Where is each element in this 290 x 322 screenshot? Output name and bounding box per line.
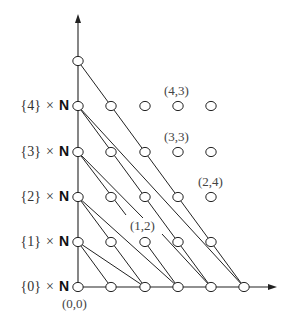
naturals-symbol: N xyxy=(59,188,69,204)
grid-node xyxy=(106,147,116,156)
coordinate-label: (4,3) xyxy=(164,83,189,99)
grid-node xyxy=(239,282,249,291)
coordinate-label: (1,2) xyxy=(130,218,155,234)
grid-node xyxy=(106,237,116,246)
grid-node xyxy=(73,101,83,110)
grid-node xyxy=(206,101,216,110)
grid-node xyxy=(173,282,183,291)
set-label: {0} xyxy=(21,279,41,294)
grid-node xyxy=(206,282,216,291)
diagram-canvas xyxy=(0,0,290,322)
grid-node xyxy=(173,237,183,246)
grid-node xyxy=(140,192,150,201)
edge-line xyxy=(78,242,111,287)
naturals-symbol: N xyxy=(59,143,69,159)
coordinate-label: (3,3) xyxy=(164,129,189,145)
grid-node xyxy=(173,192,183,201)
grid-node xyxy=(206,192,216,201)
naturals-symbol: N xyxy=(59,233,69,249)
grid-node xyxy=(140,147,150,156)
grid-node xyxy=(106,282,116,291)
grid-node xyxy=(206,147,216,156)
x-axis-arrow-icon xyxy=(268,284,277,290)
times-symbol: × xyxy=(46,98,54,113)
y-axis-arrow-icon xyxy=(75,14,81,23)
grid-node xyxy=(140,237,150,246)
grid-node xyxy=(73,56,83,65)
grid-node xyxy=(73,282,83,291)
coordinate-label: (0,0) xyxy=(62,296,87,312)
set-label: {4} xyxy=(21,98,41,113)
row-label: {0}×N xyxy=(21,278,69,295)
times-symbol: × xyxy=(46,279,54,294)
set-label: {3} xyxy=(21,144,41,159)
grid-node xyxy=(140,282,150,291)
edge-line xyxy=(78,106,244,287)
edge-line xyxy=(78,152,143,218)
set-label: {2} xyxy=(21,189,41,204)
times-symbol: × xyxy=(46,144,54,159)
set-label: {1} xyxy=(21,234,41,249)
grid-node xyxy=(73,147,83,156)
grid-node xyxy=(106,101,116,110)
grid-node xyxy=(140,101,150,110)
coordinate-label: (2,4) xyxy=(198,174,223,190)
times-symbol: × xyxy=(46,234,54,249)
row-label: {4}×N xyxy=(21,97,69,114)
grid-node xyxy=(106,192,116,201)
grid-node xyxy=(206,237,216,246)
grid-node xyxy=(173,147,183,156)
grid-node xyxy=(73,237,83,246)
row-label: {2}×N xyxy=(21,188,69,205)
row-label: {3}×N xyxy=(21,143,69,160)
row-label: {1}×N xyxy=(21,233,69,250)
naturals-symbol: N xyxy=(59,97,69,113)
times-symbol: × xyxy=(46,189,54,204)
edge-line xyxy=(145,242,178,287)
naturals-symbol: N xyxy=(59,278,69,294)
edge-line xyxy=(78,197,178,287)
grid-node xyxy=(173,101,183,110)
grid-node xyxy=(73,192,83,201)
